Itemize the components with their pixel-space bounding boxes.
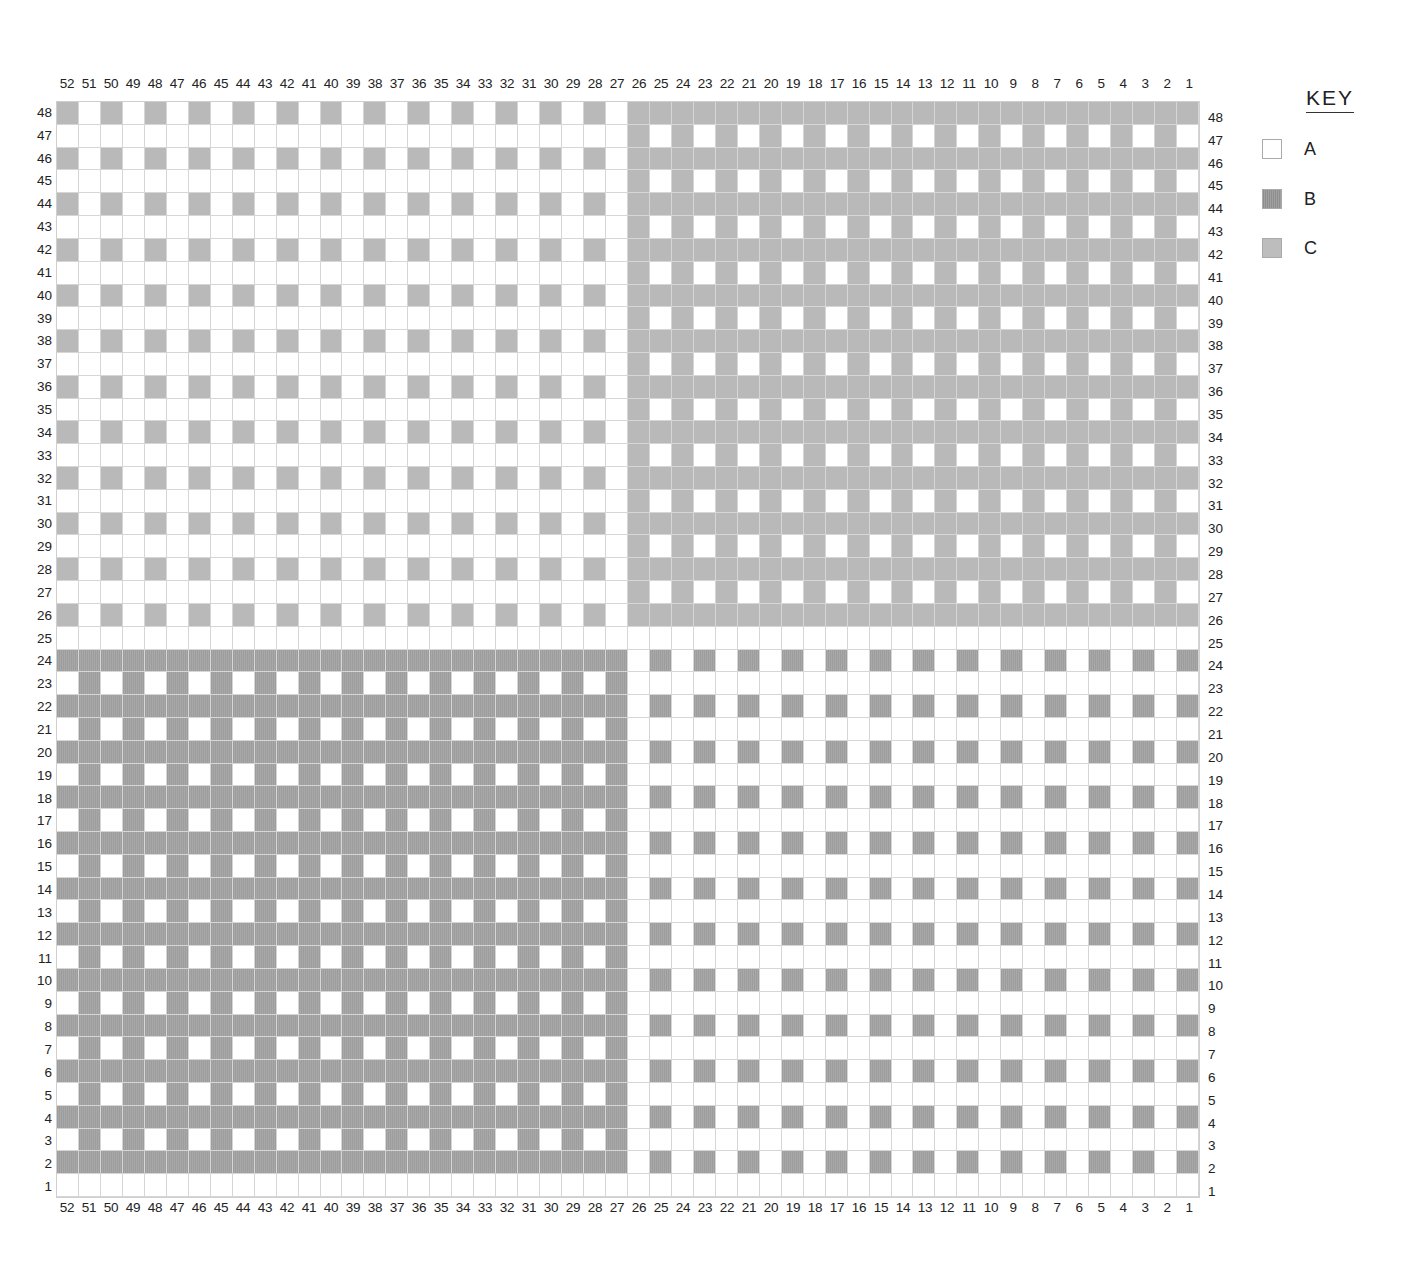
chart-cell — [892, 1037, 914, 1060]
chart-cell — [1001, 695, 1023, 718]
chart-cell — [496, 285, 518, 308]
chart-cell — [1067, 650, 1089, 673]
chart-cell — [452, 513, 474, 536]
chart-cell — [540, 558, 562, 581]
chart-cell — [1067, 1106, 1089, 1129]
row-label: 14 — [24, 882, 52, 897]
chart-cell — [804, 558, 826, 581]
chart-cell — [804, 741, 826, 764]
chart-cell — [1133, 170, 1155, 193]
chart-cell — [935, 878, 957, 901]
chart-cell — [496, 878, 518, 901]
chart-cell — [804, 376, 826, 399]
column-label: 29 — [562, 76, 584, 91]
chart-cell — [913, 718, 935, 741]
chart-cell — [782, 1129, 804, 1152]
chart-cell — [935, 1129, 957, 1152]
chart-cell — [408, 946, 430, 969]
chart-cell — [342, 1151, 364, 1174]
chart-cell — [1133, 193, 1155, 216]
chart-cell — [167, 262, 189, 285]
chart-cell — [584, 513, 606, 536]
chart-cell — [277, 1037, 299, 1060]
chart-cell — [211, 695, 233, 718]
chart-cell — [211, 444, 233, 467]
chart-cell — [957, 193, 979, 216]
chart-cell — [672, 672, 694, 695]
chart-cell — [606, 1106, 628, 1129]
chart-cell — [255, 467, 277, 490]
chart-cell — [979, 832, 1001, 855]
chart-cell — [299, 695, 321, 718]
chart-cell — [979, 1129, 1001, 1152]
chart-cell — [913, 672, 935, 695]
chart-cell — [913, 558, 935, 581]
chart-cell — [145, 353, 167, 376]
chart-cell — [694, 741, 716, 764]
chart-cell — [211, 353, 233, 376]
chart-cell — [474, 650, 496, 673]
chart-cell — [1089, 216, 1111, 239]
chart-cell — [1001, 900, 1023, 923]
chart-cell — [233, 695, 255, 718]
chart-cell — [518, 786, 540, 809]
chart-cell — [892, 376, 914, 399]
chart-cell — [145, 1106, 167, 1129]
column-label: 27 — [606, 1200, 628, 1215]
chart-cell — [870, 307, 892, 330]
chart-cell — [518, 193, 540, 216]
chart-cell — [145, 604, 167, 627]
chart-cell — [1111, 444, 1133, 467]
column-label: 25 — [650, 76, 672, 91]
chart-cell — [562, 1037, 584, 1060]
chart-cell — [408, 604, 430, 627]
chart-cell — [584, 1037, 606, 1060]
chart-cell — [628, 399, 650, 422]
chart-cell — [342, 832, 364, 855]
chart-cell — [430, 581, 452, 604]
chart-cell — [255, 1151, 277, 1174]
row-label: 35 — [24, 402, 52, 417]
row-label: 11 — [24, 951, 52, 966]
chart-cell — [892, 627, 914, 650]
chart-cell — [430, 992, 452, 1015]
chart-cell — [540, 650, 562, 673]
chart-cell — [1045, 718, 1067, 741]
chart-cell — [562, 832, 584, 855]
chart-cell — [211, 490, 233, 513]
chart-cell — [277, 170, 299, 193]
chart-cell — [628, 239, 650, 262]
chart-cell — [1177, 809, 1199, 832]
column-label: 23 — [694, 76, 716, 91]
chart-cell — [452, 1129, 474, 1152]
chart-cell — [430, 490, 452, 513]
chart-cell — [540, 444, 562, 467]
column-label: 16 — [848, 1200, 870, 1215]
chart-cell — [255, 1015, 277, 1038]
chart-cell — [760, 1015, 782, 1038]
chart-cell — [562, 353, 584, 376]
chart-cell — [518, 399, 540, 422]
chart-cell — [233, 718, 255, 741]
chart-cell — [716, 992, 738, 1015]
chart-cell — [760, 1129, 782, 1152]
chart-cell — [430, 102, 452, 125]
chart-cell — [979, 786, 1001, 809]
chart-cell — [957, 1106, 979, 1129]
chart-cell — [1089, 376, 1111, 399]
chart-cell — [650, 262, 672, 285]
chart-cell — [1023, 307, 1045, 330]
chart-cell — [892, 604, 914, 627]
chart-cell — [101, 809, 123, 832]
chart-cell — [957, 513, 979, 536]
chart-cell — [694, 923, 716, 946]
chart-cell — [167, 307, 189, 330]
chart-cell — [979, 148, 1001, 171]
chart-cell — [760, 627, 782, 650]
chart-cell — [540, 969, 562, 992]
chart-cell — [782, 832, 804, 855]
chart-cell — [826, 102, 848, 125]
chart-cell — [1111, 399, 1133, 422]
chart-cell — [1001, 1037, 1023, 1060]
chart-cell — [1089, 718, 1111, 741]
